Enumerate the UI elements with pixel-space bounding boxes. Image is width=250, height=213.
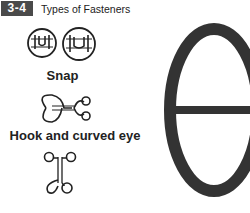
hook-and-curved-eye-label: Hook and curved eye <box>0 128 150 143</box>
hook-and-eye-icon <box>42 150 78 196</box>
eye-icon <box>158 20 250 200</box>
hook-and-curved-eye-icon <box>36 92 92 126</box>
snap-label: Snap <box>0 68 125 83</box>
snap-icon <box>26 26 98 66</box>
figure-number-badge: 3-4 <box>1 1 33 16</box>
figure-title: Types of Fasteners <box>41 3 130 15</box>
